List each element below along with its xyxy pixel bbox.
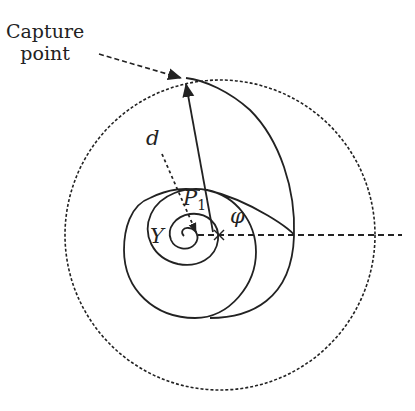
capture-leader	[99, 54, 181, 78]
spiral-trajectory	[124, 78, 294, 318]
pursuer-label-main: P	[183, 186, 197, 210]
angle-label: φ	[230, 206, 245, 227]
distance-label: d	[146, 128, 159, 149]
pursuer-label-subscript: 1	[197, 197, 206, 213]
target-label: Y	[150, 226, 164, 247]
capture-point-label-line2: point	[6, 44, 84, 63]
capture-point-label-line1: Capture	[6, 22, 84, 41]
capture-point-label: Capture point	[6, 22, 84, 63]
pursuer-label: P1	[183, 188, 206, 209]
